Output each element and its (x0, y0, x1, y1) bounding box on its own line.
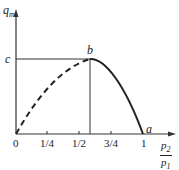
x-axis-label-numerator: p2 (160, 140, 172, 156)
y-axis-label-sub: m (9, 10, 15, 19)
x-axis-label-denominator: p1 (160, 156, 172, 170)
tick-label-3-4: 3/4 (104, 138, 118, 149)
x-axis-label: p2 p1 (160, 140, 172, 170)
a-label: a (146, 123, 152, 135)
dashed-curve (16, 59, 90, 134)
solid-curve (90, 59, 143, 134)
b-label: b (87, 44, 93, 56)
tick-label-1-2: 1/2 (72, 138, 86, 149)
tick-label-0: 0 (13, 138, 19, 149)
x-axis-arrow-icon (168, 132, 176, 137)
diagram-canvas (0, 0, 179, 170)
tick-label-1: 1 (141, 138, 147, 149)
tick-label-1-4: 1/4 (40, 138, 54, 149)
c-label: c (5, 53, 10, 65)
y-axis-label: qm (3, 4, 15, 19)
